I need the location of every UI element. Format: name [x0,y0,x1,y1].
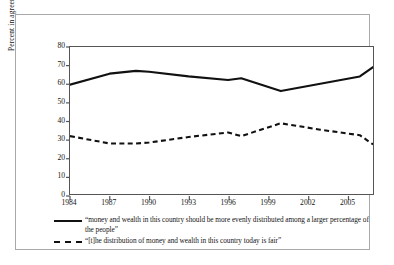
x-tick-label: 1993 [168,198,208,207]
legend-label-solid: “money and wealth in this country should… [54,215,374,234]
x-axis-tick-labels: 19841987199019931996199920022005 [69,198,374,212]
x-tick-label: 1984 [49,198,89,207]
y-tick-label: 50 [43,98,65,106]
y-tick-label: 60 [43,79,65,87]
x-tick-label: 1999 [248,198,288,207]
y-tick-label: 40 [43,117,65,125]
x-tick-label: 2005 [327,198,367,207]
legend-line-sample-dashed-icon [54,241,82,246]
y-tick-label: 30 [43,135,65,143]
legend-entry-dashed: “[t]he distribution of money and wealth … [54,236,374,246]
figure-container: Percent in agreement 80706050403020100 1… [0,0,394,265]
y-tick-label: 80 [43,42,65,50]
y-axis-tick-labels: 80706050403020100 [38,46,65,195]
y-tick-marks [66,47,70,196]
axis-tick-marks [64,47,381,204]
x-tick-label: 2002 [288,198,328,207]
x-tick-label: 1996 [208,198,248,207]
chart-legend: “money and wealth in this country should… [54,215,374,248]
legend-line-sample-solid-icon [54,220,82,225]
y-tick-label: 70 [43,61,65,69]
x-tick-label: 1987 [89,198,129,207]
figure-frame: Percent in agreement 80706050403020100 1… [15,14,370,250]
legend-entry-solid: “money and wealth in this country should… [54,215,374,234]
plot-area [69,46,374,195]
y-tick-label: 10 [43,172,65,180]
y-axis-label: Percent in agreement [7,0,16,51]
x-tick-label: 1990 [129,198,169,207]
legend-label-dashed: “[t]he distribution of money and wealth … [54,236,374,246]
y-tick-label: 20 [43,154,65,162]
